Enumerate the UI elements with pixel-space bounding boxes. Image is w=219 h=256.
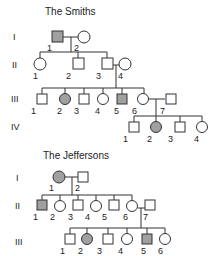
individual-number: 5: [141, 246, 146, 256]
generation-label: III: [15, 237, 23, 247]
generation-label: II: [12, 60, 17, 70]
individual-number: 7: [143, 212, 148, 222]
individual-number: 2: [66, 71, 71, 81]
individual-number: 2: [74, 43, 79, 53]
female-symbol: [78, 31, 90, 43]
generation-label: I: [13, 32, 16, 42]
individual-number: 2: [75, 183, 80, 193]
family-title-jeffersons: The Jeffersons: [43, 150, 109, 161]
generation-label: IV: [11, 122, 20, 132]
individual-number: 1: [31, 106, 36, 116]
individual-number: 4: [118, 71, 123, 81]
individual-number: 3: [68, 212, 73, 222]
generation-label: I: [16, 173, 19, 183]
individual-number: 1: [33, 212, 38, 222]
individual-number: 5: [114, 106, 119, 116]
individual-number: 6: [123, 212, 128, 222]
individual-number: 2: [78, 246, 83, 256]
individual-number: 4: [95, 106, 100, 116]
individual-number: 2: [57, 106, 62, 116]
family-title-smiths: The Smiths: [45, 6, 96, 17]
individual-number: 7: [160, 106, 165, 116]
generation-label: II: [15, 201, 20, 211]
individual-number: 6: [132, 106, 137, 116]
generation-label: III: [11, 94, 19, 104]
individual-number: 4: [194, 134, 199, 144]
individual-number: 1: [47, 43, 52, 53]
individual-number: 3: [96, 71, 101, 81]
individual-number: 1: [123, 134, 128, 144]
individual-number: 3: [168, 134, 173, 144]
individual-number: 4: [118, 246, 123, 256]
individual-number: 3: [74, 106, 79, 116]
male-affected-symbol: [52, 31, 63, 42]
individual-number: 2: [147, 134, 152, 144]
individual-number: 1: [33, 71, 38, 81]
individual-number: 3: [97, 246, 102, 256]
individual-number: 1: [60, 246, 65, 256]
individual-number: 6: [158, 246, 163, 256]
individual-number: 2: [50, 212, 55, 222]
individual-number: 1: [49, 183, 54, 193]
individual-number: 4: [85, 212, 90, 222]
individual-number: 5: [102, 212, 107, 222]
